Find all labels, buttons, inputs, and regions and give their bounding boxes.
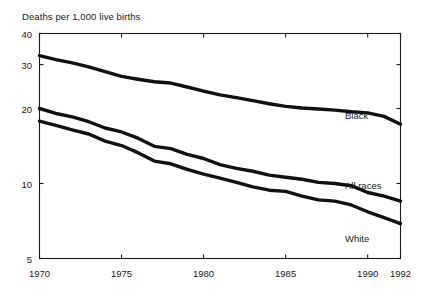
x-tick-label-1985: 1985 — [266, 268, 306, 279]
infant-mortality-line-chart: Deaths per 1,000 live births 403020105 1… — [0, 0, 421, 289]
series-label-black: Black — [345, 110, 368, 121]
x-tick-label-1980: 1980 — [184, 268, 224, 279]
y-tick-label-20: 20 — [8, 103, 32, 114]
x-tick-label-1975: 1975 — [102, 268, 142, 279]
plot-area — [0, 0, 421, 289]
y-tick-label-30: 30 — [8, 59, 32, 70]
y-tick-label-40: 40 — [8, 28, 32, 39]
x-tick-label-1970: 1970 — [20, 268, 60, 279]
series-label-all-races: All races — [345, 180, 381, 191]
y-tick-label-10: 10 — [8, 178, 32, 189]
series-label-white: White — [345, 233, 369, 244]
y-tick-label-5: 5 — [8, 253, 32, 264]
series-line-white — [40, 121, 401, 224]
x-tick-label-1992: 1992 — [381, 268, 421, 279]
data-series-group — [40, 56, 401, 224]
